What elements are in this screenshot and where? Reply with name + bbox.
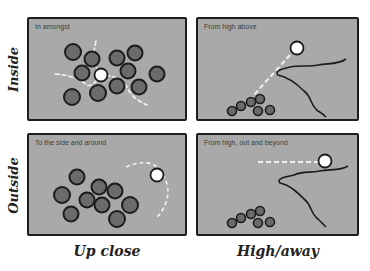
panel-outside-high: From high, out and beyond xyxy=(196,133,359,236)
camera-position-icon xyxy=(291,42,304,55)
column-label-up-close: Up close xyxy=(47,243,167,259)
camera-position-icon xyxy=(151,169,164,182)
coastline-path xyxy=(279,166,348,227)
from-high-above-illustration xyxy=(198,19,357,119)
panel-inside-high: From high above xyxy=(196,17,359,121)
to-the-side-illustration xyxy=(29,135,185,234)
coastline-path xyxy=(277,59,346,117)
camera-position-icon xyxy=(319,155,332,168)
row-label-inside: Inside xyxy=(6,30,21,110)
panel-outside-upclose: To the side and around xyxy=(27,133,187,236)
column-label-high-away: High/away xyxy=(218,243,338,259)
panel-inside-upclose: In amongst xyxy=(27,17,187,121)
camera-position-icon xyxy=(95,69,108,82)
in-amongst-illustration xyxy=(29,19,185,119)
row-label-outside: Outside xyxy=(6,146,21,226)
from-high-beyond-illustration xyxy=(198,135,357,234)
